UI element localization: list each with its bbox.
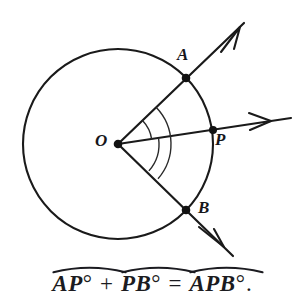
ray-ob-arrowhead-icon: [199, 227, 224, 247]
angle-arc-aop: [143, 120, 152, 139]
overarc-ap-icon: [52, 264, 127, 273]
caption-letters-ap: AP: [52, 271, 82, 296]
figure-root: A P B O AP° + PB° = APB° .: [0, 0, 303, 303]
caption-letters-pb: PB: [121, 271, 151, 296]
point-marker-a: [182, 74, 191, 83]
point-marker-o: [114, 140, 123, 149]
ray-ob: [118, 144, 233, 256]
point-label-o: O: [95, 132, 107, 149]
ray-oa: [118, 23, 244, 144]
ray-oa-arrowhead-icon: [221, 27, 240, 52]
caption: AP° + PB° = APB° .: [0, 258, 303, 303]
caption-letters-apb: APB: [189, 271, 235, 296]
ray-oa-line: [118, 23, 244, 144]
ray-op-arrowhead-icon: [249, 113, 271, 130]
caption-degree-pb: °: [151, 271, 160, 296]
overarc-apb-icon: [189, 264, 264, 273]
caption-term-arc-pb: PB°: [121, 264, 161, 297]
point-label-p: P: [215, 131, 225, 148]
caption-degree-apb: °: [236, 271, 245, 296]
caption-term-arc-ap: AP°: [52, 264, 92, 297]
point-label-b: B: [198, 199, 209, 216]
point-label-a: A: [177, 46, 188, 63]
point-marker-b: [182, 206, 191, 215]
overarc-pb-icon: [121, 264, 196, 273]
angle-arc-pob: [149, 138, 159, 171]
caption-term-arc-apb: APB°: [189, 264, 244, 297]
caption-degree-ap: °: [83, 271, 92, 296]
